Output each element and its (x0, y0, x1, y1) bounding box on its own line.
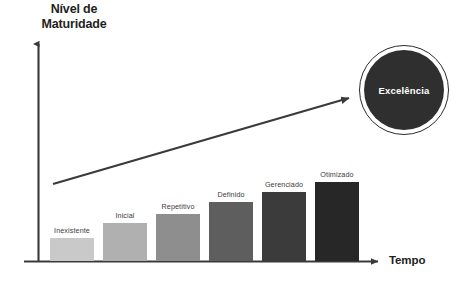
bar-label-otimizado: Otimizado (320, 170, 353, 179)
bar-label-inicial: Inicial (115, 211, 134, 220)
bar-group-gerenciado: Gerenciado (262, 0, 306, 281)
bar-definido[interactable] (209, 202, 253, 261)
bar-label-definido: Definido (217, 190, 244, 199)
excellence-badge[interactable]: Excelência (359, 45, 449, 135)
bar-group-inexistente: Inexistente (50, 0, 94, 281)
bar-label-gerenciado: Gerenciado (265, 180, 303, 189)
bar-group-repetitivo: Repetitivo (156, 0, 200, 281)
excellence-label: Excelência (378, 85, 429, 96)
excellence-disc: Excelência (364, 50, 444, 130)
bar-inicial[interactable] (103, 223, 147, 261)
bar-repetitivo[interactable] (156, 214, 200, 261)
bar-group-otimizado: Otimizado (315, 0, 359, 281)
bar-group-inicial: Inicial (103, 0, 147, 281)
bar-label-repetitivo: Repetitivo (162, 202, 195, 211)
bar-gerenciado[interactable] (262, 192, 306, 261)
x-axis-caption: Tempo (389, 254, 425, 266)
bar-otimizado[interactable] (315, 182, 359, 261)
maturity-chart-figure: Nível de Maturidade Inexistente (0, 0, 451, 281)
bar-label-inexistente: Inexistente (54, 226, 90, 235)
bar-inexistente[interactable] (50, 238, 94, 261)
bar-group-definido: Definido (209, 0, 253, 281)
